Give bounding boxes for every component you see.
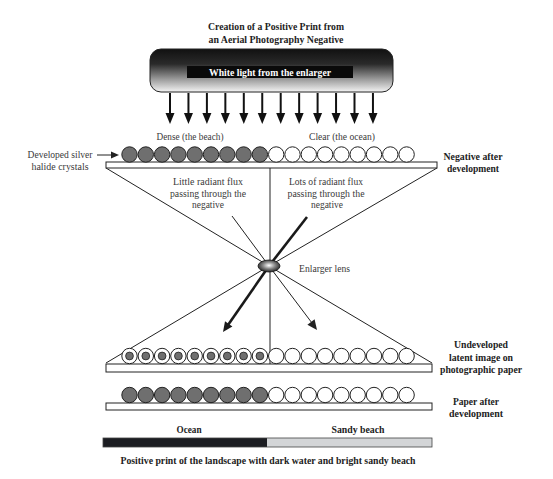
crystal-clear: [269, 387, 284, 402]
crystal-exposed: [187, 348, 202, 363]
lots-flux-projected-ray: [228, 266, 269, 325]
latent-side-label-line-2: latent image on: [449, 352, 513, 363]
thin-arrow-head-icon: [307, 319, 317, 330]
crystal-dense: [252, 387, 267, 402]
crystal-dense: [154, 387, 169, 402]
positive-print-strip: [103, 438, 432, 447]
crystal-dense: [187, 387, 202, 402]
crystal-clear: [334, 147, 349, 162]
crystal-dense: [187, 147, 202, 162]
crystal-unexposed: [350, 348, 365, 363]
title-line-2: an Aerial Photography Negative: [209, 33, 344, 45]
light-arrow-icon: [166, 93, 175, 124]
crystal-clear: [350, 147, 365, 162]
lots-flux-ray: [269, 217, 307, 266]
light-arrow-icon: [368, 93, 377, 124]
enlarger-lens-icon: [258, 260, 280, 272]
crystal-dense: [203, 387, 218, 402]
light-arrow-icon: [295, 93, 304, 124]
clear-ocean-label: Clear (the ocean): [309, 131, 375, 143]
light-arrow-icon: [332, 93, 341, 124]
crystal-exposed: [171, 348, 186, 363]
crystal-clear: [366, 387, 381, 402]
crystal-clear: [317, 387, 332, 402]
crystal-exposed: [122, 348, 137, 363]
crystal-dense: [252, 147, 267, 162]
lots-flux-line-1: Lots of radiant flux: [289, 176, 363, 187]
latent-side-label: Undeveloped latent image on photographic…: [440, 339, 523, 375]
crystal-exposed: [220, 348, 235, 363]
negative-side-label-line-2: development: [447, 163, 500, 174]
crystal-dense: [203, 147, 218, 162]
crystal-unexposed: [383, 348, 398, 363]
crystal-unexposed: [285, 348, 300, 363]
crystal-clear: [301, 387, 316, 402]
ocean-region: [103, 438, 267, 447]
light-arrow-icon: [350, 93, 359, 124]
crystal-dense: [220, 147, 235, 162]
crystal-clear: [383, 147, 398, 162]
crystal-dense: [220, 387, 235, 402]
callout-arrow-head-icon: [111, 152, 119, 159]
crystals-label-line-2: halide crystals: [32, 161, 89, 172]
negative-film-base: [106, 162, 437, 168]
latent-side-label-line-1: Undeveloped: [454, 339, 508, 350]
light-arrow-icon: [184, 93, 193, 124]
paper-side-label-line-2: development: [449, 408, 504, 419]
negative-crystal-row: [122, 147, 415, 162]
crystal-dense: [236, 387, 251, 402]
light-arrow-icon: [221, 93, 230, 124]
crystal-exposed: [203, 348, 218, 363]
crystal-clear: [350, 387, 365, 402]
ocean-label: Ocean: [177, 424, 202, 435]
crystal-unexposed: [269, 348, 284, 363]
positive-print-diagram: Creation of a Positive Print from an Aer…: [0, 0, 553, 479]
crystal-dense: [171, 147, 186, 162]
enlarger-label: White light from the enlarger: [209, 67, 332, 78]
lots-flux-label: Lots of radiant flux passing through the…: [288, 176, 366, 210]
little-flux-line-1: Little radiant flux: [173, 176, 243, 187]
crystal-clear: [317, 147, 332, 162]
little-flux-line-3: negative: [192, 199, 225, 210]
crystal-exposed: [252, 348, 267, 363]
crystal-clear: [366, 147, 381, 162]
light-arrow-icon: [313, 93, 322, 124]
beach-region: [267, 438, 432, 447]
little-flux-projected-ray: [269, 266, 312, 323]
crystal-clear: [285, 387, 300, 402]
little-flux-label: Little radiant flux passing through the …: [170, 176, 247, 210]
crystal-dense: [122, 387, 137, 402]
crystals-label-line-1: Developed silver: [28, 149, 94, 160]
lots-flux-line-3: negative: [311, 199, 344, 210]
crystal-dense: [122, 147, 137, 162]
latent-crystal-row: [122, 348, 415, 363]
crystal-dense: [138, 387, 153, 402]
little-flux-ray: [232, 216, 269, 266]
paper-side-label: Paper after development: [449, 396, 504, 419]
sandy-beach-label: Sandy beach: [332, 424, 385, 435]
crystal-exposed: [138, 348, 153, 363]
print-caption: Positive print of the landscape with dar…: [121, 455, 416, 466]
light-arrow-icon: [202, 93, 211, 124]
crystal-unexposed: [301, 348, 316, 363]
crystal-unexposed: [399, 348, 414, 363]
enlarger-lens-label: Enlarger lens: [299, 263, 350, 274]
crystal-dense: [154, 147, 169, 162]
crystal-dense: [138, 147, 153, 162]
dense-beach-label: Dense (the beach): [157, 131, 224, 143]
diagram-title: Creation of a Positive Print from an Aer…: [208, 20, 344, 45]
crystal-dense: [171, 387, 186, 402]
crystal-clear: [301, 147, 316, 162]
crystal-clear: [383, 387, 398, 402]
paper-crystal-row: [122, 387, 415, 402]
developed-paper-base: [106, 403, 432, 410]
light-arrows: [166, 93, 378, 124]
crystal-clear: [334, 387, 349, 402]
light-arrow-icon: [239, 93, 248, 124]
light-arrow-icon: [258, 93, 267, 124]
crystal-clear: [399, 387, 414, 402]
crystal-clear: [399, 147, 414, 162]
title-line-1: Creation of a Positive Print from: [208, 20, 344, 32]
crystal-dense: [236, 147, 251, 162]
latent-side-label-line-3: photographic paper: [440, 364, 523, 375]
